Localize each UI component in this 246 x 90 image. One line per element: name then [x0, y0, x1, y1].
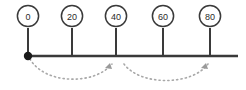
value-node-label: 80: [205, 12, 215, 22]
value-node-label: 20: [67, 12, 77, 22]
value-node-20[interactable]: 20: [61, 5, 82, 26]
value-node-60[interactable]: 60: [152, 5, 173, 26]
value-node-0[interactable]: 0: [17, 5, 38, 26]
diagram-canvas: 0 20 40 60 80: [0, 0, 246, 90]
jump-arrowhead-at-40: [105, 57, 116, 69]
jump-arrowhead-at-80: [201, 57, 212, 69]
jump-arc-40-to-80: [124, 64, 208, 81]
value-node-80[interactable]: 80: [199, 5, 220, 26]
jump-arcs-group: [30, 57, 212, 81]
value-node-40[interactable]: 40: [105, 5, 126, 26]
start-point-dot: [24, 52, 32, 60]
number-line-diagram: 0 20 40 60 80: [0, 0, 246, 90]
tick-stems-group: [28, 28, 210, 56]
value-node-label: 0: [25, 12, 30, 22]
value-node-label: 40: [111, 12, 121, 22]
jump-arc-0-to-40: [30, 59, 112, 79]
value-node-label: 60: [158, 12, 168, 22]
